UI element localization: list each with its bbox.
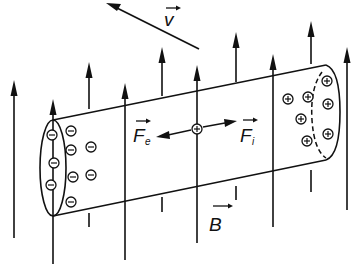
positive-charge — [323, 99, 333, 109]
positive-charge — [322, 76, 332, 86]
positive-charge — [303, 92, 313, 102]
velocity-arrow — [117, 8, 199, 49]
electric-force-label: F e — [133, 119, 151, 148]
positive-charge — [302, 136, 312, 146]
negative-charge — [66, 126, 76, 136]
negative-charge — [49, 158, 59, 168]
field-line — [159, 47, 166, 212]
magnetic-field-label: B — [209, 204, 233, 236]
negative-charge — [46, 180, 56, 190]
velocity-label: v — [164, 6, 181, 31]
positive-charge — [323, 129, 333, 139]
cylinder-bottom-edge — [53, 160, 326, 216]
field-line — [233, 32, 240, 200]
velocity-label-text: v — [164, 9, 175, 30]
lorentz-force-arrow — [203, 123, 225, 127]
conductor-cylinder — [40, 65, 340, 216]
positive-charge — [283, 94, 293, 104]
field-line — [270, 54, 277, 227]
lorentz-force-arrowhead — [224, 119, 237, 127]
magnetic-field-label-text: B — [209, 214, 222, 235]
electric-force-subscript: e — [145, 136, 151, 147]
positive-charges — [283, 76, 333, 146]
field-line — [122, 83, 129, 260]
magnetic-field-lines — [11, 21, 351, 264]
positive-charge — [296, 114, 306, 124]
electric-force-arrow — [168, 130, 191, 135]
lorentz-force-label: F i — [240, 118, 258, 148]
negative-charge — [47, 130, 57, 140]
velocity-vector — [106, 3, 199, 49]
negative-charge — [66, 197, 76, 207]
negative-charge — [86, 142, 96, 152]
negative-charge — [86, 170, 96, 180]
field-line — [308, 21, 315, 192]
cylinder-top-edge — [53, 65, 326, 120]
field-line — [344, 47, 351, 210]
negative-charge — [68, 172, 78, 182]
negative-charge — [66, 145, 76, 155]
electric-force-arrowhead — [156, 131, 170, 139]
lorentz-force-subscript: i — [252, 136, 255, 147]
field-line — [11, 80, 18, 238]
center-positive-charge — [192, 124, 202, 134]
velocity-arrowhead — [106, 3, 121, 11]
hall-effect-diagram: v F e F i B — [0, 0, 351, 264]
labels: v F e F i B — [133, 6, 258, 236]
